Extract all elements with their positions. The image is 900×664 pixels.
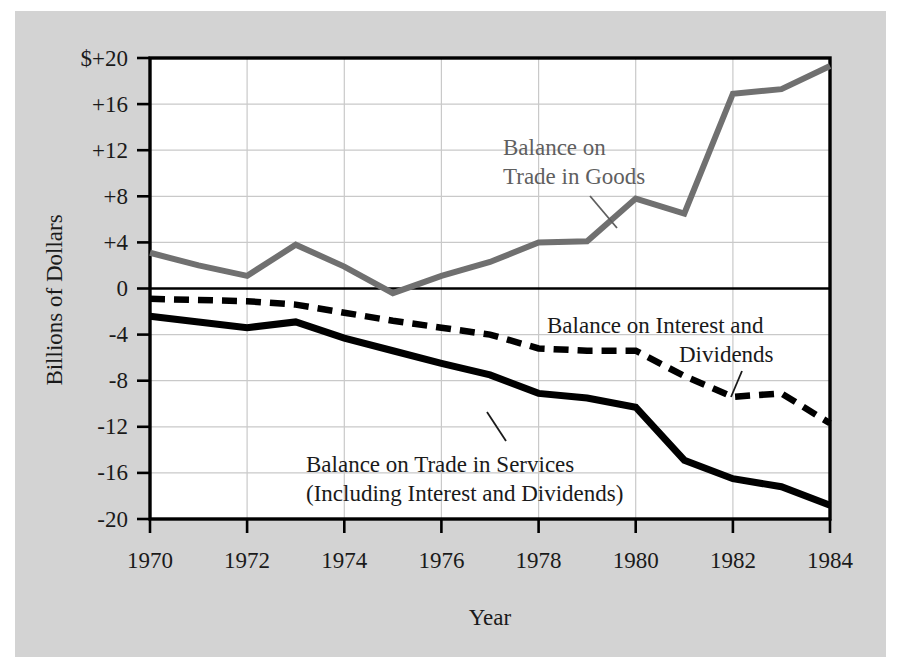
xtick-label-1970: 1970 — [127, 548, 173, 573]
annot-goods-line2: Trade in Goods — [503, 164, 645, 189]
ytick-label-20: $+20 — [81, 46, 128, 71]
ytick-label-12: +12 — [92, 138, 128, 163]
x-axis-ticks — [150, 519, 830, 533]
x-axis-title: Year — [469, 605, 512, 630]
trade-balance-line-chart: $+20 +16 +12 +8 +4 0 -4 -8 -12 -16 -20 1… — [0, 0, 900, 664]
annot-goods-line1: Balance on — [503, 135, 606, 160]
ytick-label-4: +4 — [104, 230, 129, 255]
annot-interest-line1: Balance on Interest and — [547, 313, 764, 338]
annot-interest-line2: Dividends — [679, 342, 774, 367]
ytick-label-neg12: -12 — [97, 414, 128, 439]
figure-canvas: $+20 +16 +12 +8 +4 0 -4 -8 -12 -16 -20 1… — [0, 0, 900, 664]
ytick-label-neg8: -8 — [109, 368, 128, 393]
xtick-label-1978: 1978 — [516, 548, 562, 573]
annot-services-line1: Balance on Trade in Services — [306, 452, 574, 477]
ytick-label-16: +16 — [92, 92, 128, 117]
ytick-label-neg20: -20 — [97, 507, 128, 532]
y-axis-ticks — [137, 58, 150, 519]
ytick-label-neg16: -16 — [97, 460, 128, 485]
ytick-label-8: +8 — [104, 184, 128, 209]
annot-services-line2: (Including Interest and Dividends) — [306, 481, 623, 506]
xtick-label-1982: 1982 — [710, 548, 756, 573]
xtick-label-1980: 1980 — [613, 548, 659, 573]
xtick-label-1984: 1984 — [807, 548, 854, 573]
ytick-label-neg4: -4 — [109, 322, 129, 347]
xtick-label-1976: 1976 — [418, 548, 464, 573]
xtick-label-1972: 1972 — [224, 548, 270, 573]
ytick-label-0: 0 — [117, 276, 129, 301]
xtick-label-1974: 1974 — [321, 548, 368, 573]
y-axis-title: Billions of Dollars — [42, 214, 67, 385]
